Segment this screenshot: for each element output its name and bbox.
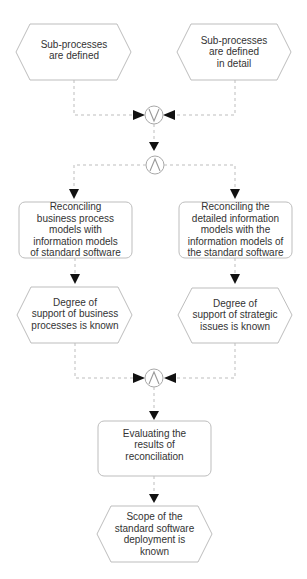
arrow-right-icon [133,110,145,120]
connector-line [74,80,134,115]
arrow-down-icon [69,189,79,199]
arrow-down-icon [149,494,159,503]
function-evaluate: Evaluating the results of reconciliation [98,421,211,469]
connector-line [74,165,146,189]
connector-line [75,343,134,378]
connector-line [164,165,235,189]
event-scope-known: Scope of the standard software deploymen… [104,508,205,560]
arrow-left-icon [164,373,176,383]
arrow-down-icon [230,189,240,199]
event-subprocesses-defined: Sub-processes are defined [30,30,118,70]
event-subprocesses-defined-detail: Sub-processes are defined in detail [190,30,278,74]
arrow-down-icon [149,411,159,420]
arrow-down-icon [230,274,240,284]
function-reconcile-detailed: Reconciling the detailed information mod… [179,202,292,258]
epc-diagram [0,0,307,579]
connector-line [175,80,235,115]
connector-line [176,343,235,378]
function-reconcile-business: Reconciling business process models with… [19,202,132,258]
arrow-down-icon [70,274,80,284]
event-degree-business: Degree of support of business processes … [25,293,125,335]
arrow-left-icon [163,110,175,120]
arrow-right-icon [133,373,145,383]
arrow-down-icon [149,142,159,151]
event-degree-strategic: Degree of support of strategic issues is… [185,294,285,336]
